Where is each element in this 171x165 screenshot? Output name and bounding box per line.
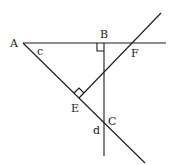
point-label-f: F xyxy=(131,47,139,60)
point-label-c: C xyxy=(108,115,116,128)
point-label-b: B xyxy=(100,28,108,41)
point-label-a: A xyxy=(9,37,19,50)
angle-label-c: c xyxy=(37,45,43,58)
geometry-diagram: A c B F E C d xyxy=(0,0,171,165)
line-aec xyxy=(23,43,145,163)
angle-label-d: d xyxy=(93,124,100,137)
line-ef xyxy=(79,13,161,98)
point-label-e: E xyxy=(71,102,79,115)
right-angle-marker-e xyxy=(74,88,84,93)
right-angle-marker-b xyxy=(97,43,104,51)
